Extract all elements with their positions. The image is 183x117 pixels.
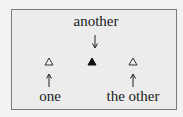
filled-triangle-icon — [87, 57, 97, 66]
arrow-up-icon — [45, 73, 53, 87]
label-the-other: the other — [107, 89, 160, 104]
open-triangle-icon — [128, 57, 138, 66]
open-triangle-icon — [44, 57, 54, 66]
label-another: another — [74, 14, 119, 29]
label-one: one — [39, 89, 61, 104]
arrow-down-icon — [91, 35, 99, 49]
arrow-up-icon — [129, 73, 137, 87]
